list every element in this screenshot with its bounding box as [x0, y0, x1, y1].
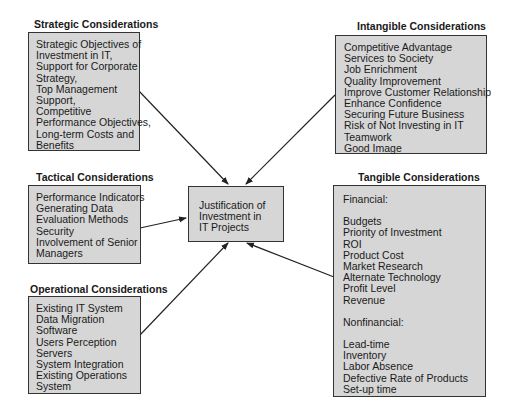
intangible-item: Risk of Not Investing in IT — [344, 120, 478, 131]
strategic-box: Strategic Objectives of Investment in IT… — [28, 32, 140, 151]
intangible-title: Intangible Considerations — [357, 20, 486, 32]
intangible-box: Competitive Advantage Services to Societ… — [335, 35, 487, 154]
financial-item: Priority of Investment — [343, 227, 476, 238]
financial-heading: Financial: — [343, 194, 476, 205]
operational-box: Existing IT System Data Migration Softwa… — [28, 296, 141, 394]
strategic-item: Performance Objectives, — [36, 117, 132, 128]
intangible-item: Good Image — [344, 143, 478, 154]
center-box: Justification of Investment in IT Projec… — [188, 186, 284, 242]
nonfinancial-heading: Nonfinancial: — [343, 317, 476, 328]
tactical-title: Tactical Considerations — [36, 171, 154, 183]
strategic-item: Benefits — [36, 140, 132, 151]
center-line: IT Projects — [199, 222, 273, 233]
tangible-box: Financial: Budgets Priority of Investmen… — [333, 185, 486, 397]
nonfinancial-item: Labor Absence — [343, 361, 476, 372]
arrow-tactical — [140, 218, 186, 228]
intangible-item: Job Enrichment — [344, 64, 478, 75]
tactical-item: Managers — [36, 248, 133, 259]
strategic-item: Support for Corporate — [36, 61, 132, 72]
tactical-item: Evaluation Methods — [36, 214, 133, 225]
arrow-tangible — [247, 243, 334, 277]
arrow-intangible — [246, 95, 335, 184]
operational-title: Operational Considerations — [30, 283, 168, 295]
operational-item: System — [36, 381, 133, 392]
operational-item: Software — [36, 325, 133, 336]
arrow-strategic — [138, 90, 228, 184]
financial-item: Profit Level — [343, 283, 476, 294]
strategic-title: Strategic Considerations — [34, 18, 158, 30]
financial-item: Revenue — [343, 295, 476, 306]
tangible-title: Tangible Considerations — [358, 171, 480, 183]
nonfinancial-item: Set-up time — [343, 384, 476, 395]
tactical-box: Performance Indicators Generating Data E… — [28, 185, 141, 264]
